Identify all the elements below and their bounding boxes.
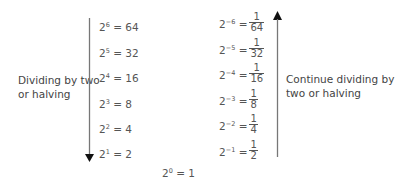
equation-2-pow-2: 22 = 4	[99, 121, 132, 135]
equation-2-pow-1: 21 = 2	[99, 146, 132, 160]
fraction: 14	[249, 114, 257, 135]
equation-2-pow-neg-3: 2−3 =18	[219, 89, 258, 110]
equation-2-pow-neg-6: 2−6 =164	[219, 12, 264, 33]
fraction: 12	[249, 140, 257, 161]
right-label-line1: Continue dividing by	[286, 72, 394, 86]
right-label: Continue dividing by two or halving	[286, 72, 394, 100]
equation-2-pow-neg-1: 2−1 =12	[219, 140, 258, 161]
fraction: 164	[249, 12, 264, 33]
equation-2-pow-3: 23 = 8	[99, 96, 132, 110]
fraction: 116	[249, 63, 264, 84]
equation-2-pow-6: 26 = 64	[99, 19, 139, 33]
equation-2-pow-neg-5: 2−5 =132	[219, 38, 264, 59]
equation-2-pow-neg-2: 2−2 =14	[219, 114, 258, 135]
equation-2-pow-4: 24 = 16	[99, 70, 139, 84]
fraction: 132	[249, 38, 264, 59]
equation-2-pow-neg-4: 2−4 =116	[219, 63, 264, 84]
fraction: 18	[249, 89, 257, 110]
equation-2-pow-5: 25 = 32	[99, 45, 139, 59]
right-label-line2: two or halving	[286, 86, 394, 100]
down-arrow-icon	[84, 16, 96, 164]
up-arrow-icon	[272, 9, 284, 159]
equation-2-pow-0: 20 = 1	[162, 165, 195, 179]
